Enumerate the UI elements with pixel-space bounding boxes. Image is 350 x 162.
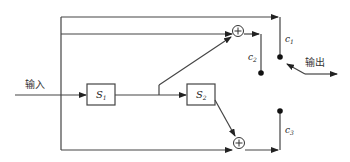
block-s2: S2 [187,84,215,105]
contact-c1-label: c1 [285,34,294,45]
contact-c2-dot [258,70,264,76]
contact-c2-label: c2 [248,52,257,63]
block-diagram: 输入 c1 c2 S1 [0,0,350,162]
output-label: 输出 [305,56,325,68]
sum-junction-top [233,26,244,37]
s2-to-sum-bottom [215,100,235,136]
sum-junction-bottom [234,138,245,149]
contact-c3-label: c3 [285,125,294,136]
top-bypass-path [61,17,280,57]
input-label: 输入 [25,78,45,90]
contact-c1-dot [277,54,283,60]
sum-bottom-to-c3 [245,111,280,150]
block-s1: S1 [87,84,115,105]
contact-c3-dot [277,108,283,114]
